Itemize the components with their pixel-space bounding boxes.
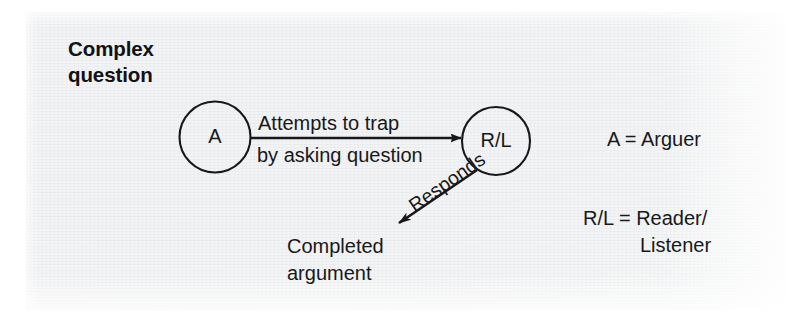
edge-label-by-asking-question: by asking question [257,142,423,168]
edge-label-attempts-to-trap: Attempts to trap [258,110,399,136]
node-label-arguer: A [180,125,250,148]
legend-entry-reader-listener: R/L = Reader/ Listener [583,178,711,286]
node-label-reader-listener: R/L [462,129,530,152]
legend-rl-line1: R/L = Reader/ [583,207,707,229]
complex-question-figure: Complex question A R/L Attempts to trap … [0,0,810,332]
figure-title: Complex question [68,36,154,88]
legend-rl-line2: Listener [583,232,711,259]
legend-entry-arguer: A = Arguer [607,126,701,153]
outcome-completed-argument: Completed argument [287,233,384,287]
